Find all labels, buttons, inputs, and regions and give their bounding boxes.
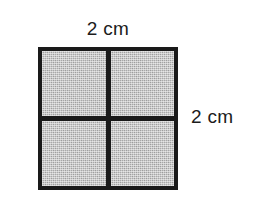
square-cell-top-right: [111, 51, 175, 116]
square-cell-bottom-left: [42, 121, 106, 186]
square-cell-bottom-right: [111, 121, 175, 186]
square-cell-top-left: [42, 51, 106, 116]
subdivided-square: [38, 47, 178, 190]
dimension-label-top: 2 cm: [38, 18, 178, 40]
dimension-label-right: 2 cm: [191, 106, 233, 128]
geometry-figure: 2 cm 2 cm: [0, 0, 263, 212]
